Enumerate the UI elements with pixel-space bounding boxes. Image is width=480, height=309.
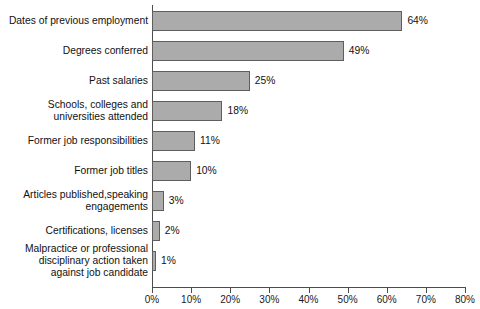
x-tick-40% xyxy=(309,288,310,293)
category-label: Past salaries xyxy=(0,75,148,87)
x-tick-70% xyxy=(426,288,427,293)
category-label: Dates of previous employment xyxy=(0,15,148,27)
category-label: Schools, colleges and universities atten… xyxy=(0,99,148,123)
bar xyxy=(152,221,160,241)
x-tick-label: 30% xyxy=(249,294,289,306)
x-tick-label: 40% xyxy=(289,294,329,306)
bar-row: Schools, colleges and universities atten… xyxy=(0,96,475,126)
category-label: Certifications, licenses xyxy=(0,225,148,237)
category-label: Former job responsibilities xyxy=(0,135,148,147)
bar-value-label: 11% xyxy=(200,134,220,148)
bar-row: Dates of previous employment64% xyxy=(0,6,475,36)
x-tick-label: 60% xyxy=(367,294,407,306)
bar xyxy=(152,71,250,91)
category-label: Articles published,speaking engagements xyxy=(0,189,148,213)
bar xyxy=(152,101,222,121)
x-tick-label: 50% xyxy=(328,294,368,306)
bar xyxy=(152,251,156,271)
bar-row: Malpractice or professional disciplinary… xyxy=(0,246,475,276)
x-tick-0% xyxy=(152,288,153,293)
bar-value-label: 18% xyxy=(227,104,248,118)
bar-value-label: 25% xyxy=(255,74,276,88)
bar xyxy=(152,161,191,181)
bar-row: Certifications, licenses2% xyxy=(0,216,475,246)
x-tick-80% xyxy=(465,288,466,293)
x-tick-30% xyxy=(269,288,270,293)
bar xyxy=(152,191,164,211)
bar-value-label: 49% xyxy=(349,44,370,58)
bar-row: Former job responsibilities11% xyxy=(0,126,475,156)
bar-value-label: 64% xyxy=(407,14,428,28)
bar-row: Former job titles10% xyxy=(0,156,475,186)
x-tick-label: 70% xyxy=(406,294,446,306)
bar-row: Articles published,speaking engagements3… xyxy=(0,186,475,216)
bar xyxy=(152,41,344,61)
x-tick-50% xyxy=(348,288,349,293)
x-tick-10% xyxy=(191,288,192,293)
bar-row: Degrees conferred49% xyxy=(0,36,475,66)
bar-value-label: 2% xyxy=(165,224,180,238)
category-label: Former job titles xyxy=(0,165,148,177)
bar-row: Past salaries25% xyxy=(0,66,475,96)
category-label: Malpractice or professional disciplinary… xyxy=(0,243,148,280)
category-label: Degrees conferred xyxy=(0,45,148,57)
x-tick-20% xyxy=(230,288,231,293)
bar-value-label: 10% xyxy=(196,164,217,178)
x-tick-label: 0% xyxy=(132,294,172,306)
bar xyxy=(152,131,195,151)
x-tick-label: 10% xyxy=(171,294,211,306)
x-tick-label: 20% xyxy=(210,294,250,306)
bar-value-label: 1% xyxy=(161,254,176,268)
bar-value-label: 3% xyxy=(169,194,184,208)
bar xyxy=(152,11,402,31)
x-tick-label: 80% xyxy=(445,294,480,306)
x-tick-60% xyxy=(387,288,388,293)
